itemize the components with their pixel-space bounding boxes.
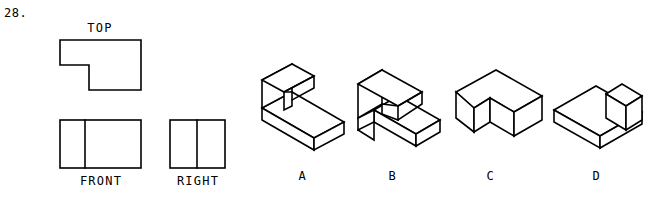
option-b-svg xyxy=(348,62,448,154)
option-c-svg xyxy=(452,62,552,154)
option-b-drawing[interactable] xyxy=(348,62,448,154)
front-view-label: FRONT xyxy=(58,174,144,188)
right-view-svg xyxy=(168,118,228,170)
front-view-svg xyxy=(58,118,144,170)
option-c-label: C xyxy=(480,169,500,183)
option-c-drawing[interactable] xyxy=(452,62,552,154)
front-view-outline xyxy=(60,120,141,168)
question-number: 28. xyxy=(4,6,27,20)
option-d-drawing[interactable] xyxy=(548,62,652,154)
top-view-label: TOP xyxy=(72,21,128,35)
option-d-label: D xyxy=(586,169,606,183)
option-a-wall-front-face xyxy=(284,92,292,110)
worksheet-page: 28. TOP FRONT RIGHT xyxy=(0,0,661,206)
top-view-drawing xyxy=(58,38,144,94)
option-a-drawing[interactable] xyxy=(252,62,352,154)
right-view-drawing xyxy=(168,118,228,170)
option-b-label: B xyxy=(382,169,402,183)
option-a-label: A xyxy=(292,169,312,183)
right-view-label: RIGHT xyxy=(164,174,232,188)
front-view-drawing xyxy=(58,118,144,170)
top-view-svg xyxy=(58,38,144,94)
option-d-svg xyxy=(548,62,652,154)
option-a-svg xyxy=(252,62,352,154)
top-view-l-outline xyxy=(60,40,141,90)
